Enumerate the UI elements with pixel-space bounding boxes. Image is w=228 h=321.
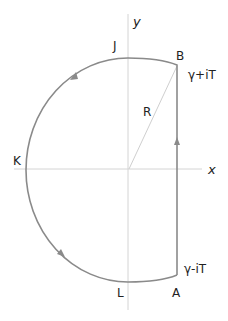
arrow-up-icon xyxy=(174,137,180,145)
point-b-label: B xyxy=(176,49,184,63)
point-a-label: A xyxy=(172,286,181,300)
contour-diagram: y x J B γ+iT R K γ-iT L A xyxy=(0,0,228,321)
upper-limit-label: γ+iT xyxy=(188,68,216,82)
y-axis-label: y xyxy=(132,14,141,29)
lower-limit-label: γ-iT xyxy=(184,262,207,276)
contour-path xyxy=(26,58,177,282)
x-axis-label: x xyxy=(207,162,216,177)
point-l-label: L xyxy=(117,286,124,300)
point-k-label: K xyxy=(13,154,22,168)
arrow-arc-bottom-icon xyxy=(57,249,65,257)
point-j-label: J xyxy=(112,39,117,53)
radius-line xyxy=(129,66,177,169)
radius-label: R xyxy=(143,105,151,119)
